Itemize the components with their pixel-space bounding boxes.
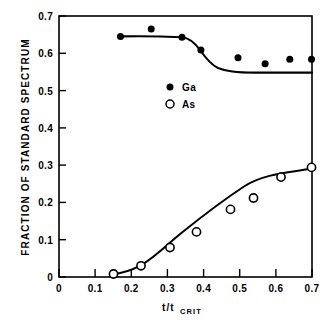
x-tick-label-0.2: 0.2 bbox=[124, 283, 139, 294]
x-tick-label-0.6: 0.6 bbox=[268, 283, 283, 294]
series-ga-line bbox=[121, 36, 313, 72]
x-tick-label-0.7: 0.7 bbox=[305, 283, 320, 294]
x-axis-title: t/t CRIT bbox=[162, 302, 202, 316]
y-axis-title: FRACTION OF STANDARD SPECTRUM bbox=[20, 38, 31, 255]
as-point-7 bbox=[277, 173, 285, 181]
as-point-1 bbox=[109, 270, 117, 278]
ga-point-4 bbox=[197, 46, 204, 53]
x-tick-label-0.5: 0.5 bbox=[232, 283, 247, 294]
y-tick-label-0.3: 0.3 bbox=[38, 160, 53, 171]
ga-point-7 bbox=[286, 56, 293, 63]
y-tick-label-0: 0 bbox=[47, 272, 53, 283]
legend: Ga As bbox=[166, 82, 196, 110]
legend-label-ga: Ga bbox=[182, 82, 196, 93]
ga-point-6 bbox=[262, 60, 269, 67]
plot-canvas: Ga As 0.7 0.6 0.5 0.4 0.3 0.2 0.1 0 0 0.… bbox=[0, 0, 334, 320]
as-point-8 bbox=[307, 163, 315, 171]
ga-point-2 bbox=[148, 26, 155, 33]
legend-marker-open-circle-icon bbox=[166, 100, 174, 108]
series-as bbox=[109, 163, 315, 278]
ga-point-1 bbox=[117, 33, 124, 40]
ga-point-8 bbox=[308, 56, 315, 63]
chart-figure: Ga As 0.7 0.6 0.5 0.4 0.3 0.2 0.1 0 0 0.… bbox=[0, 0, 334, 320]
x-axis-title-subscript: CRIT bbox=[180, 307, 202, 316]
y-tick-labels: 0.7 0.6 0.5 0.4 0.3 0.2 0.1 0 bbox=[38, 11, 53, 283]
x-tick-labels: 0 0.1 0.2 0.3 0.4 0.5 0.6 0.7 bbox=[56, 283, 319, 294]
as-point-3 bbox=[166, 243, 174, 251]
ga-point-5 bbox=[235, 54, 242, 61]
as-point-2 bbox=[137, 262, 145, 270]
y-tick-label-0.4: 0.4 bbox=[38, 123, 53, 134]
y-tick-label-0.6: 0.6 bbox=[38, 48, 53, 59]
x-tick-label-0.1: 0.1 bbox=[88, 283, 103, 294]
y-tick-label-0.2: 0.2 bbox=[38, 197, 53, 208]
y-tick-label-0.7: 0.7 bbox=[38, 11, 53, 22]
as-point-6 bbox=[249, 194, 257, 202]
x-axis-ticks bbox=[59, 269, 312, 277]
y-tick-label-0.5: 0.5 bbox=[38, 86, 53, 97]
y-axis-ticks bbox=[59, 16, 66, 277]
as-point-4 bbox=[192, 228, 200, 236]
ga-point-3 bbox=[179, 34, 186, 41]
x-tick-label-0.4: 0.4 bbox=[196, 283, 211, 294]
as-point-5 bbox=[226, 205, 234, 213]
x-axis-title-main: t/t bbox=[162, 302, 175, 313]
x-tick-label-0: 0 bbox=[56, 283, 62, 294]
y-tick-label-0.1: 0.1 bbox=[38, 235, 53, 246]
series-ga bbox=[117, 26, 315, 73]
frame-box bbox=[59, 16, 312, 277]
plot-frame bbox=[59, 16, 312, 277]
legend-marker-filled-circle-icon bbox=[167, 84, 174, 91]
x-tick-label-0.3: 0.3 bbox=[160, 283, 175, 294]
series-as-line bbox=[112, 169, 312, 275]
legend-label-as: As bbox=[182, 99, 196, 110]
